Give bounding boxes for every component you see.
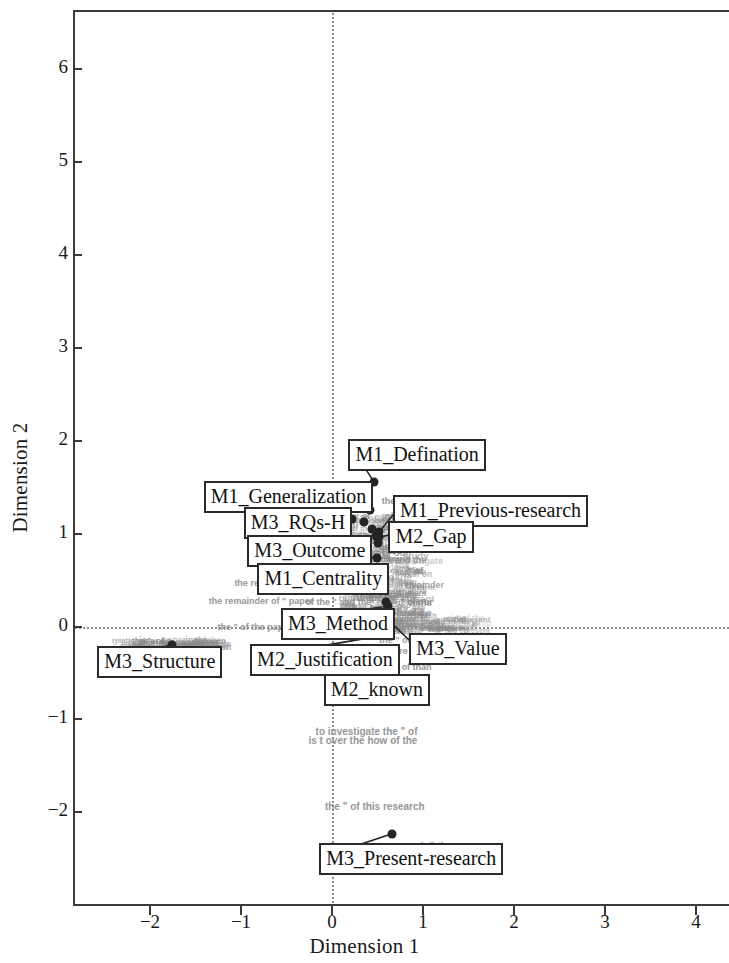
point-label-box: M2_known xyxy=(324,674,430,706)
point-label-box: M2_Justification xyxy=(250,644,400,676)
data-point xyxy=(372,553,381,562)
point-label-box: M3_Value xyxy=(409,633,506,665)
x-axis-title: Dimension 1 xyxy=(0,934,729,959)
point-label-box: M1_Centrality xyxy=(257,563,389,595)
data-point xyxy=(359,517,368,526)
data-point xyxy=(388,829,397,838)
point-label-box: M3_Outcome xyxy=(247,535,372,567)
point-label-box: M1_Defination xyxy=(348,439,485,471)
point-label-box: M3_Method xyxy=(281,608,395,640)
figure-canvas: the remainder of " paperof the " and the… xyxy=(0,0,729,963)
data-point xyxy=(381,598,390,607)
point-label-box: M3_Present-research xyxy=(319,843,503,875)
data-point xyxy=(373,538,382,547)
point-label-box: M3_Structure xyxy=(97,646,222,678)
y-axis-title: Dimension 2 xyxy=(8,298,33,658)
point-label-box: M2_Gap xyxy=(388,521,473,553)
